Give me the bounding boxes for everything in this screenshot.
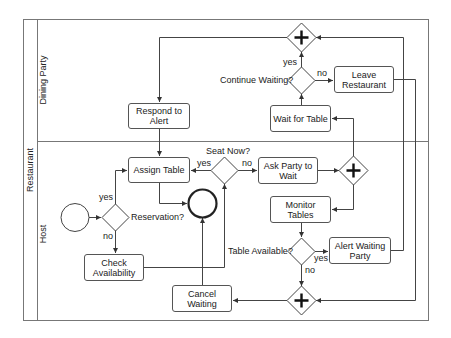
task-respond-to-alert[interactable]: Respond to Alert [128,103,190,129]
task-cancel-waiting[interactable]: Cancel Waiting [172,285,232,312]
flow-label-reservation-yes: yes [99,192,113,202]
gateway-label-continue-waiting: Continue Waiting? [220,75,293,85]
task-assign-table[interactable]: Assign Table [128,157,190,183]
pool-label: Restaurant [25,142,35,198]
bpmn-diagram: Restaurant Dining Party Host Respond to … [0,0,451,338]
parallel-gateway-host-icon [339,156,368,185]
task-check-availability[interactable]: Check Availability [84,254,144,281]
gateway-label-seat-now: Seat Now? [206,146,250,156]
end-event-icon [189,190,217,218]
parallel-gateway-bottom-icon [287,286,316,315]
flow-label-seat-now-yes: yes [197,158,211,168]
task-ask-party-to-wait[interactable]: Ask Party to Wait [258,157,318,184]
parallel-gateway-top-icon [287,23,316,52]
flow-label-seat-now-no: no [242,158,252,168]
gateway-reservation-icon [102,204,129,231]
start-event-icon [61,204,89,232]
gateway-seat-now-icon [211,157,238,184]
task-leave-restaurant[interactable]: Leave Restaurant [334,66,394,93]
flow-label-table-available-yes: yes [314,253,328,263]
lane-label-dining-party: Dining Party [38,47,48,113]
flow-label-reservation-no: no [103,231,113,241]
task-alert-waiting-party[interactable]: Alert Waiting Party [329,237,391,264]
lane-label-host: Host [38,219,48,249]
flow-label-table-available-no: no [305,265,315,275]
gateway-label-reservation: Reservation? [131,212,184,222]
gateway-label-table-available: Table Available? [228,246,293,256]
flow-label-continue-waiting-yes: yes [283,57,297,67]
flow-label-continue-waiting-no: no [317,68,327,78]
task-monitor-tables[interactable]: Monitor Tables [270,196,331,223]
task-wait-for-table[interactable]: Wait for Table [270,105,331,132]
